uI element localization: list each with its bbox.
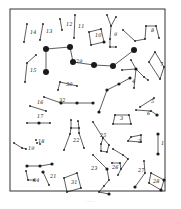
constellation-15: 15 — [24, 54, 37, 83]
star-icon — [24, 81, 26, 83]
star-icon — [25, 170, 27, 172]
star-icon — [143, 76, 145, 78]
star-icon — [43, 69, 49, 75]
constellation-label: 34 — [33, 177, 39, 183]
constellation-line — [156, 26, 159, 38]
constellations-layer: 1413121110981529743016321756322181925212… — [13, 14, 165, 195]
constellation-label: 15 — [30, 67, 36, 73]
constellation-line — [113, 50, 134, 66]
star-icon — [97, 110, 100, 113]
star-icon — [67, 44, 73, 50]
constellation-label: 19 — [28, 145, 35, 151]
constellation-label: 8 — [151, 27, 154, 33]
star-icon — [127, 140, 129, 142]
constellation-line — [118, 169, 121, 175]
star-icon — [70, 127, 72, 129]
star-icon — [115, 16, 117, 18]
star-icon — [154, 51, 156, 53]
star-icon — [63, 149, 65, 151]
star-icon — [110, 63, 116, 69]
star-icon — [77, 120, 79, 122]
star-icon — [106, 151, 108, 153]
star-icon — [122, 29, 124, 31]
star-icon — [25, 148, 27, 150]
star-icon — [143, 160, 145, 162]
star-icon — [128, 114, 130, 116]
constellation-line — [113, 149, 123, 155]
constellation-32: 32 — [43, 96, 95, 105]
constellation-label: 23 — [90, 165, 97, 171]
star-icon — [119, 162, 121, 164]
constellation-line — [103, 138, 109, 145]
star-icon — [88, 31, 90, 33]
star-icon — [29, 105, 31, 107]
constellation-line — [101, 138, 103, 144]
star-icon — [117, 174, 119, 176]
star-icon — [70, 119, 72, 121]
constellation-line — [135, 173, 145, 187]
constellation-label: 30 — [66, 81, 73, 87]
star-icon — [63, 177, 65, 179]
constellation-line — [89, 32, 91, 45]
star-icon — [102, 40, 105, 43]
constellation-label: 4 — [131, 78, 135, 84]
star-icon — [90, 44, 92, 46]
constellation-line — [64, 178, 67, 192]
star-icon — [39, 39, 41, 41]
star-icon — [98, 191, 100, 193]
star-icon — [59, 18, 61, 20]
star-icon — [156, 132, 159, 135]
star-icon — [26, 23, 28, 25]
constellation-line — [14, 143, 22, 148]
star-icon — [145, 25, 147, 27]
constellation-line — [46, 47, 70, 49]
star-icon — [80, 187, 82, 189]
star-icon — [91, 62, 97, 68]
constellation-33 — [25, 162, 53, 167]
star-icon — [130, 136, 132, 138]
constellation-16: 16 — [29, 99, 47, 112]
star-icon — [26, 62, 28, 64]
constellation-10: 10 — [88, 28, 106, 46]
constellation-line — [149, 52, 155, 62]
constellation-line — [110, 26, 111, 39]
constellation-1: 1 — [156, 132, 164, 155]
constellation-label: 28 — [152, 178, 159, 184]
constellation-line — [24, 24, 27, 42]
constellation-line — [77, 173, 81, 188]
constellation-26: 26 — [111, 148, 129, 176]
constellation-label: 12 — [66, 21, 72, 27]
star-icon — [103, 185, 105, 187]
constellation-line — [107, 145, 109, 152]
star-icon — [25, 164, 28, 167]
constellation-line — [43, 172, 49, 185]
star-icon — [38, 164, 41, 167]
constellation-28: 28 — [148, 172, 165, 191]
constellation-label: 13 — [46, 28, 52, 34]
constellation-line — [145, 26, 146, 39]
star-icon — [144, 38, 146, 40]
star-icon — [74, 14, 76, 16]
star-icon — [130, 59, 132, 61]
star-icon — [139, 106, 141, 108]
star-icon — [135, 109, 137, 111]
star-icon — [57, 89, 59, 91]
star-icon — [147, 79, 149, 81]
star-icon — [159, 188, 162, 191]
star-icon — [100, 150, 102, 152]
star-icon — [26, 122, 28, 124]
constellation-line — [120, 163, 121, 169]
constellation-14: 14 — [23, 23, 36, 43]
constellation-line — [131, 135, 141, 137]
constellation-label: 9 — [114, 31, 118, 37]
star-icon — [108, 144, 110, 146]
constellation-label: 10 — [95, 32, 102, 38]
constellation-line — [123, 30, 135, 41]
constellation-line — [107, 15, 111, 26]
constellation-line — [107, 169, 109, 180]
star-icon — [115, 46, 117, 48]
constellation-label: 2 — [137, 138, 141, 144]
star-icon — [27, 179, 29, 181]
constellation-22: 22 — [63, 119, 85, 151]
constellation-line — [129, 115, 131, 124]
